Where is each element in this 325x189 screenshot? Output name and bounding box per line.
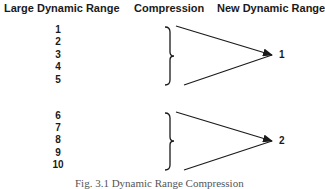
arrow-line: [176, 112, 272, 141]
output-value: 1: [279, 49, 285, 61]
arrow-line: [176, 26, 272, 55]
arrow-line: [184, 55, 272, 85]
brace-icon: [165, 27, 174, 85]
figure-caption: Fig. 3.1 Dynamic Range Compression: [75, 177, 244, 189]
output-value: 2: [279, 135, 285, 147]
arrow-line: [184, 141, 272, 170]
brace-icon: [165, 113, 174, 170]
